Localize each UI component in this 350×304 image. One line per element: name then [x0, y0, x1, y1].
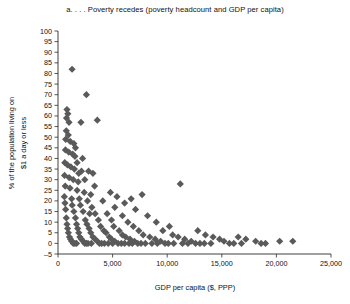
- y-tick-label: –5: [44, 250, 52, 259]
- data-point: [88, 204, 95, 211]
- y-tick-label: 40: [44, 154, 52, 163]
- y-tick-label: 35: [44, 165, 52, 174]
- data-point: [87, 191, 94, 198]
- data-point: [144, 212, 151, 219]
- data-point: [138, 191, 145, 198]
- data-point: [74, 159, 81, 166]
- y-tick-label: 0: [48, 239, 52, 248]
- data-point: [230, 240, 237, 247]
- data-point: [113, 193, 120, 200]
- y-tick-label: 65: [44, 101, 52, 110]
- y-tick-label: 90: [44, 48, 52, 57]
- data-point: [202, 231, 209, 238]
- y-tick-label: 45: [44, 143, 52, 152]
- data-point: [177, 180, 184, 187]
- data-point: [111, 204, 118, 211]
- data-point: [104, 210, 111, 217]
- data-point: [235, 233, 242, 240]
- data-point: [153, 219, 160, 226]
- data-point: [77, 119, 84, 126]
- data-point: [74, 187, 81, 194]
- x-tick-label: 10,000: [156, 259, 178, 268]
- data-point: [107, 189, 114, 196]
- y-axis-title-line2: $1 a day or less: [19, 117, 28, 169]
- data-point: [84, 197, 91, 204]
- data-point: [170, 240, 177, 247]
- poverty-gdp-scatter-figure: a. . . . Poverty recedes (poverty headco…: [0, 0, 350, 304]
- data-point: [159, 227, 166, 234]
- data-point: [86, 210, 93, 217]
- data-point: [262, 240, 269, 247]
- data-point: [201, 240, 208, 247]
- data-point: [132, 206, 139, 213]
- data-point: [80, 208, 87, 215]
- data-point: [79, 155, 86, 162]
- data-point: [62, 206, 69, 213]
- data-point: [194, 227, 201, 234]
- data-point: [61, 193, 68, 200]
- data-point: [124, 219, 131, 226]
- y-axis-tick-marks: [55, 31, 59, 254]
- x-axis-tick-marks: [58, 254, 331, 258]
- data-point: [63, 214, 70, 221]
- y-tick-label: 50: [44, 133, 52, 142]
- y-tick-label: 100: [40, 27, 52, 36]
- data-point: [76, 195, 83, 202]
- data-point: [99, 197, 106, 204]
- data-point: [95, 216, 102, 223]
- y-tick-label: 5: [48, 228, 52, 237]
- data-point: [110, 223, 117, 230]
- y-axis-tick-labels: –505101520253035404550556065707580859095…: [40, 27, 52, 259]
- data-point-markers: [61, 66, 297, 247]
- data-point: [83, 91, 90, 98]
- x-tick-label: 25,000: [320, 259, 342, 268]
- data-point: [81, 176, 88, 183]
- y-tick-label: 70: [44, 90, 52, 99]
- y-tick-label: 25: [44, 186, 52, 195]
- data-point: [119, 212, 126, 219]
- x-tick-label: 5,000: [104, 259, 122, 268]
- y-axis-title-line1: % of the population living on: [7, 97, 16, 189]
- y-tick-label: 85: [44, 58, 52, 67]
- x-tick-label: 20,000: [265, 259, 287, 268]
- y-tick-label: 15: [44, 207, 52, 216]
- data-point: [94, 117, 101, 124]
- y-tick-label: 20: [44, 196, 52, 205]
- data-point: [121, 199, 128, 206]
- y-tick-label: 80: [44, 69, 52, 78]
- y-tick-label: 55: [44, 122, 52, 131]
- data-point: [142, 240, 149, 247]
- data-point: [276, 238, 283, 245]
- data-point: [207, 240, 214, 247]
- x-tick-label: 0: [56, 259, 60, 268]
- y-tick-label: 10: [44, 218, 52, 227]
- data-point: [68, 66, 75, 73]
- data-point: [289, 238, 296, 245]
- data-point: [108, 216, 115, 223]
- data-point: [70, 208, 77, 215]
- data-point: [91, 182, 98, 189]
- y-tick-label: 95: [44, 37, 52, 46]
- y-tick-label: 75: [44, 80, 52, 89]
- data-point: [130, 223, 137, 230]
- data-point: [166, 223, 173, 230]
- x-axis-title: GDP per capita ($, PPP): [155, 283, 235, 292]
- y-tick-label: 30: [44, 175, 52, 184]
- data-point: [77, 202, 84, 209]
- data-point: [69, 202, 76, 209]
- data-point: [68, 195, 75, 202]
- x-tick-label: 15,000: [211, 259, 233, 268]
- data-point: [209, 233, 216, 240]
- scatter-plot: –505101520253035404550556065707580859095…: [0, 0, 350, 304]
- data-point: [72, 214, 79, 221]
- data-point: [61, 199, 68, 206]
- data-point: [81, 189, 88, 196]
- data-point: [128, 195, 135, 202]
- x-axis-tick-labels: 05,00010,00015,00020,00025,000: [56, 259, 342, 268]
- y-tick-label: 60: [44, 111, 52, 120]
